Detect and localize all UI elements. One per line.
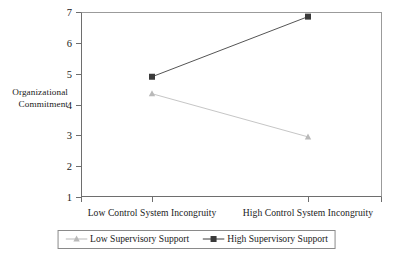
legend-label: High Supervisory Support (227, 233, 328, 245)
square-marker (305, 14, 311, 20)
y-axis-tick-label: 6 (67, 37, 72, 48)
plot-area: 1234567 Low Control System IncongruityHi… (81, 12, 382, 197)
legend-triangle-icon (65, 234, 87, 244)
y-axis-tick-label: 4 (67, 99, 72, 110)
square-marker (149, 74, 155, 80)
triangle-marker (149, 90, 155, 96)
x-axis-origin-tick (81, 197, 82, 202)
interaction-line-chart: Organizational Commitment 1234567 Low Co… (0, 0, 393, 257)
x-axis-tick (152, 197, 153, 202)
series-line (152, 17, 308, 77)
x-axis-end-tick (381, 197, 382, 202)
legend-entry-high-supervisory-support: High Supervisory Support (202, 233, 328, 245)
series-high-supervisory-support (149, 14, 311, 80)
square-marker (210, 236, 216, 242)
legend-square-icon (202, 234, 224, 244)
y-axis-title-line-1: Organizational (0, 87, 68, 99)
y-axis-title: Organizational Commitment (0, 87, 68, 110)
x-axis-tick-label: High Control System Incongruity (243, 207, 373, 218)
y-axis-tick-label: 3 (67, 130, 72, 141)
y-axis-tick-label: 5 (67, 68, 72, 79)
y-axis-tick-label: 2 (67, 161, 72, 172)
y-axis-tick-label: 7 (67, 7, 72, 18)
series-line (152, 94, 308, 137)
chart-legend: Low Supervisory SupportHigh Supervisory … (57, 230, 336, 249)
series-low-supervisory-support (149, 90, 311, 139)
x-axis-tick (308, 197, 309, 202)
legend-entry-low-supervisory-support: Low Supervisory Support (65, 233, 189, 245)
legend-label: Low Supervisory Support (90, 233, 189, 245)
y-axis-title-line-2: Commitment (0, 99, 68, 111)
x-axis-tick-label: Low Control System Incongruity (88, 207, 217, 218)
y-axis-tick-label: 1 (67, 192, 72, 203)
series-layer (81, 12, 382, 197)
